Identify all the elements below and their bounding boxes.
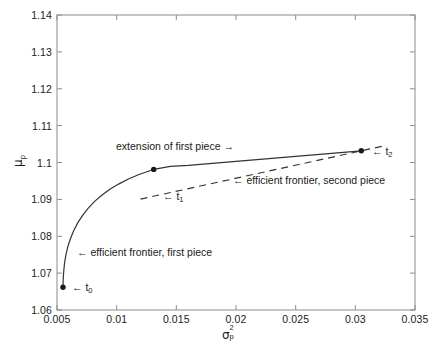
- point-label-t0-subscript: 0: [88, 286, 92, 295]
- x-tick-label-0-015: 0.015: [151, 313, 201, 325]
- point-label-t1-arrow: ← t: [163, 190, 179, 202]
- x-axis-title-sigma: σ: [222, 328, 230, 342]
- point-label-t2-subscript: 2: [388, 150, 392, 159]
- x-tick-label-0-03: 0.03: [330, 313, 380, 325]
- y-tick-label-1-14: 1.14: [18, 9, 52, 21]
- point-label-t1: ← t1: [163, 190, 184, 204]
- annotation-efficient-frontier-first-piece: ← efficient frontier, first piece: [77, 246, 212, 258]
- plot-frame: [57, 15, 415, 310]
- y-axis-title-subscript: p: [18, 155, 27, 159]
- x-axis-title-subscript: p: [230, 332, 234, 341]
- point-label-t0: ← t0: [72, 281, 93, 295]
- marker-t2: [359, 148, 364, 153]
- chart-figure: 1.14 1.13 1.12 1.11 1.1 1.09 1.08 1.07 1…: [0, 0, 443, 361]
- x-tick-label-0-02: 0.02: [211, 313, 261, 325]
- annotation-extension-of-first-piece: extension of first piece →: [116, 140, 234, 152]
- x-tick-label-0-035: 0.035: [390, 313, 440, 325]
- marker-t1: [151, 167, 156, 172]
- point-label-t2-arrow: ← t: [372, 145, 388, 157]
- y-tick-label-1-07: 1.07: [18, 267, 52, 279]
- point-label-t2: ← t2: [372, 145, 393, 159]
- y-tick-label-1-09: 1.09: [18, 193, 52, 205]
- annotation-efficient-frontier-second-piece: ← efficient frontier, second piece: [233, 174, 385, 186]
- marker-t0: [60, 285, 65, 290]
- y-tick-label-1-11: 1.11: [18, 120, 52, 132]
- x-axis-title-superscript: 2: [230, 323, 234, 332]
- x-axis-title: σ 2 p: [222, 328, 237, 342]
- y-tick-label-1-08: 1.08: [18, 230, 52, 242]
- point-label-t0-arrow: ← t: [72, 281, 88, 293]
- x-tick-label-0-025: 0.025: [271, 313, 321, 325]
- y-tick-label-1-12: 1.12: [18, 83, 52, 95]
- point-label-t1-subscript: 1: [179, 195, 183, 204]
- y-axis-title: μp: [6, 148, 32, 174]
- y-axis-title-mu: μ: [11, 159, 25, 167]
- y-tick-label-1-13: 1.13: [18, 46, 52, 58]
- x-tick-label-0-005: 0.005: [32, 313, 82, 325]
- x-tick-label-0-01: 0.01: [92, 313, 142, 325]
